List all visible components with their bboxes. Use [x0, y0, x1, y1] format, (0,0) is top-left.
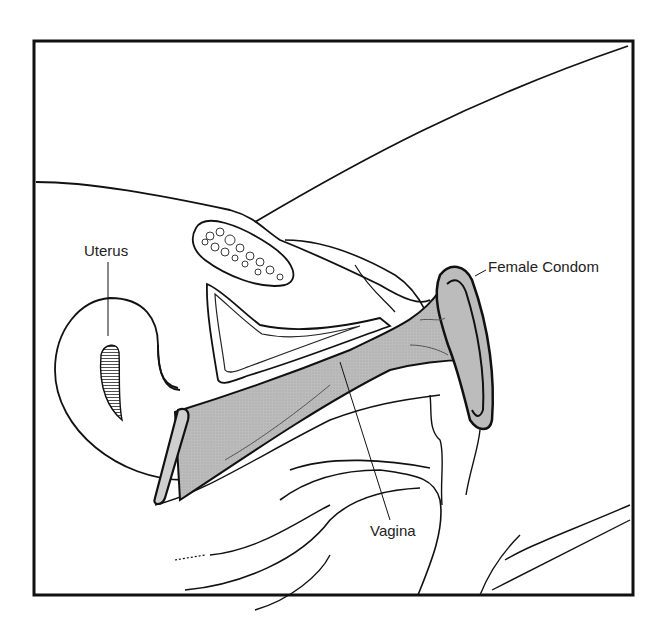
anatomy-diagram — [0, 0, 661, 620]
vagina-label: Vagina — [370, 522, 416, 539]
diagram-frame — [34, 41, 633, 595]
buttock-outline — [290, 460, 430, 470]
perineum-line — [430, 395, 442, 505]
pubic-bone — [193, 221, 294, 286]
uterine-cavity — [101, 345, 122, 420]
female-condom-label: Female Condom — [488, 258, 599, 275]
female-condom-leader — [475, 270, 486, 276]
vagina-leader — [340, 362, 390, 520]
uterus-label: Uterus — [84, 242, 128, 259]
abdomen-outline — [255, 46, 628, 222]
